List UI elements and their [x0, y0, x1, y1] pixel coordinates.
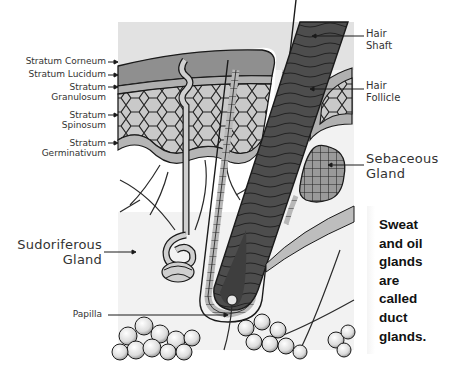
label-stratum-spinosum: Stratum Spinosum: [62, 110, 106, 131]
label-stratum-corneum: Stratum Corneum: [26, 56, 106, 66]
label-sudoriferous-gland: Sudoriferous Gland: [17, 238, 102, 268]
label-sebaceous-gland: Sebaceous Gland: [366, 152, 438, 182]
label-stratum-lucidum: Stratum Lucidum: [28, 69, 106, 79]
papilla-shape: [227, 295, 237, 305]
label-stratum-germinativum: Stratum Germinativum: [42, 138, 106, 159]
label-hair-shaft: Hair Shaft: [366, 28, 392, 51]
skin-diagram: Stratum Corneum Stratum Lucidum Stratum …: [0, 0, 454, 380]
label-stratum-granulosum: Stratum Granulosum: [51, 82, 106, 103]
label-hair-follicle: Hair Follicle: [366, 80, 400, 103]
label-papilla: Papilla: [73, 309, 102, 319]
note-box: Sweat and oil glands are called duct gla…: [367, 206, 447, 354]
note-text: Sweat and oil glands are called duct gla…: [379, 216, 426, 346]
